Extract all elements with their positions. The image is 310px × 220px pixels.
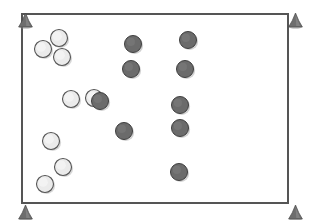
light-marker-8-highlight [38, 177, 47, 186]
diagram-canvas [0, 0, 310, 220]
light-marker-4-highlight [64, 92, 73, 101]
dark-marker-9-highlight [173, 166, 181, 174]
light-marker-6-highlight [44, 134, 53, 143]
dark-marker-3-highlight [94, 95, 102, 103]
light-marker-1-highlight [52, 31, 61, 40]
dark-marker-1-highlight [127, 38, 135, 46]
dark-marker-6-highlight [179, 63, 187, 71]
dark-marker-7-highlight [174, 99, 182, 107]
light-marker-2-highlight [36, 42, 45, 51]
dark-marker-5-highlight [182, 34, 190, 42]
light-marker-3-highlight [55, 50, 64, 59]
dark-marker-8-highlight [174, 122, 182, 130]
scene-svg [0, 0, 310, 220]
dark-marker-2-highlight [125, 63, 133, 71]
dark-marker-4-highlight [118, 125, 126, 133]
light-marker-7-highlight [56, 160, 65, 169]
